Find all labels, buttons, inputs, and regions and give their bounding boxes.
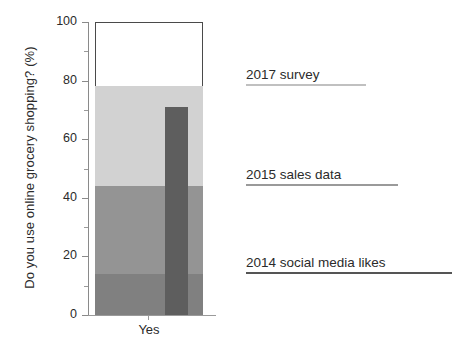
annotation-label: 2017 survey	[246, 67, 320, 82]
y-axis-tick-label: 20	[49, 248, 77, 262]
x-axis-line	[88, 315, 216, 316]
overlay-response-bar	[165, 107, 188, 315]
x-axis-category-label: Yes	[108, 322, 190, 337]
y-axis-tick-label: 0	[49, 307, 77, 321]
bar-segment	[95, 22, 203, 86]
annotation-rule	[246, 184, 398, 186]
y-axis-title: Do you use online grocery shopping? (%)	[22, 8, 37, 328]
y-axis-tick-label: 80	[49, 73, 77, 87]
annotation-rule	[246, 272, 452, 274]
y-axis-tick-label: 100	[49, 14, 77, 28]
chart-container: Do you use online grocery shopping? (%) …	[0, 0, 467, 346]
annotation-label: 2015 sales data	[246, 167, 341, 182]
x-axis-tick	[148, 315, 149, 320]
y-axis-tick-label: 60	[49, 131, 77, 145]
annotation-label: 2014 social media likes	[246, 255, 386, 270]
y-axis-tick-label: 40	[49, 190, 77, 204]
annotation-rule	[246, 84, 366, 86]
